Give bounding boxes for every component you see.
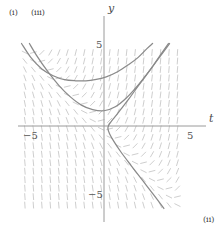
- plot-canvas: [0, 0, 223, 233]
- slope-field-figure: y t 5 −5 −5 5 (i) (iii) (ii): [0, 0, 223, 233]
- y-tick-label-minus-5: −5: [88, 190, 103, 200]
- y-axis-label: y: [108, 3, 114, 14]
- curve-label-i: (i): [9, 9, 18, 17]
- slope-field: [22, 50, 180, 209]
- t-tick-label-5: 5: [187, 131, 193, 141]
- solution-curve-iii: [29, 44, 168, 111]
- curve-label-ii: (ii): [203, 216, 214, 224]
- y-tick-label-5: 5: [96, 40, 102, 50]
- t-tick-label-minus-5: −5: [23, 131, 38, 141]
- t-axis-label: t: [209, 113, 213, 124]
- curve-label-iii: (iii): [31, 9, 45, 17]
